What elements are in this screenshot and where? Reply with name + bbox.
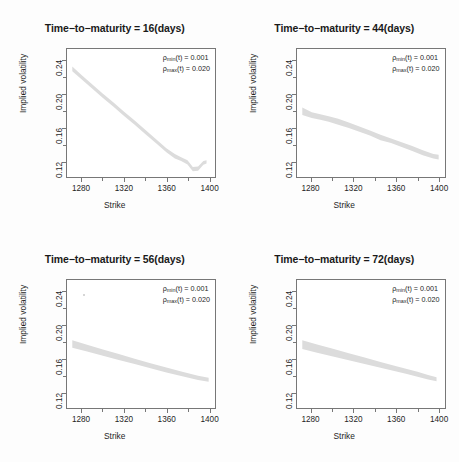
x-tick-label: 1280 xyxy=(301,184,319,193)
y-tick-minor xyxy=(293,308,296,309)
x-tick-minor xyxy=(188,178,189,181)
y-tick-minor xyxy=(293,145,296,146)
y-axis-title: Implied volatility xyxy=(248,54,258,113)
rho-max-line: ρmax(t) = 0.020 xyxy=(392,64,439,75)
plot-area: ρmin(t) = 0.001 ρmax(t) = 0.020 xyxy=(296,48,446,178)
x-tick-minor xyxy=(375,178,376,181)
rho-annotation: ρmin(t) = 0.001 ρmax(t) = 0.020 xyxy=(392,284,439,307)
x-tick-label: 1360 xyxy=(387,184,405,193)
y-tick-label: 0.24 xyxy=(285,291,294,307)
y-tick-minor xyxy=(63,77,66,78)
y-tick-label: 0.16 xyxy=(56,359,65,375)
rho-max-line: ρmax(t) = 0.020 xyxy=(163,64,210,75)
y-tick-label: 0.20 xyxy=(285,94,294,110)
x-tick xyxy=(439,409,440,413)
x-axis-title: Strike xyxy=(230,200,459,210)
rho-min-line: ρmin(t) = 0.001 xyxy=(163,53,210,64)
rho-max-line: ρmax(t) = 0.020 xyxy=(392,295,439,306)
x-tick-label: 1360 xyxy=(158,415,176,424)
x-axis-title: Strike xyxy=(230,431,459,441)
y-axis-title: Implied volatility xyxy=(18,285,28,344)
stray-point-marker xyxy=(83,294,85,296)
x-axis-title: Strike xyxy=(0,431,230,441)
rho-min-line: ρmin(t) = 0.001 xyxy=(392,53,439,64)
x-tick-minor xyxy=(375,409,376,412)
x-tick-minor xyxy=(102,178,103,181)
plot-area: ρmin(t) = 0.001 ρmax(t) = 0.020 xyxy=(66,48,216,178)
chart-panel-56: Time−to−maturity = 56(days) ρmin(t) = 0.… xyxy=(0,231,230,462)
y-tick-minor xyxy=(63,111,66,112)
x-tick xyxy=(124,409,125,413)
y-tick-label: 0.16 xyxy=(285,128,294,144)
y-tick-minor xyxy=(63,342,66,343)
y-tick-label: 0.16 xyxy=(285,359,294,375)
y-tick-label: 0.16 xyxy=(56,128,65,144)
chart-panel-16: Time−to−maturity = 16(days) ρmin(t) = 0.… xyxy=(0,0,230,231)
y-tick-minor xyxy=(63,308,66,309)
y-tick-label: 0.12 xyxy=(285,393,294,409)
x-tick-minor xyxy=(418,409,419,412)
y-tick-label: 0.20 xyxy=(56,94,65,110)
x-tick-minor xyxy=(418,178,419,181)
y-tick-minor xyxy=(293,77,296,78)
x-tick xyxy=(311,178,312,182)
y-axis-title: Implied volatility xyxy=(18,54,28,113)
x-tick-label: 1400 xyxy=(430,184,448,193)
y-tick-minor xyxy=(63,376,66,377)
x-tick xyxy=(439,178,440,182)
x-tick xyxy=(167,178,168,182)
chart-panel-72: Time−to−maturity = 72(days) ρmin(t) = 0.… xyxy=(230,231,459,462)
panel-title: Time−to−maturity = 56(days) xyxy=(0,253,230,265)
rho-annotation: ρmin(t) = 0.001 ρmax(t) = 0.020 xyxy=(392,53,439,76)
rho-annotation: ρmin(t) = 0.001 ρmax(t) = 0.020 xyxy=(163,284,210,307)
x-tick xyxy=(124,178,125,182)
panel-title: Time−to−maturity = 44(days) xyxy=(230,22,459,34)
x-tick-minor xyxy=(145,178,146,181)
x-tick-label: 1400 xyxy=(200,184,218,193)
rho-min-line: ρmin(t) = 0.001 xyxy=(392,284,439,295)
x-tick xyxy=(396,409,397,413)
x-tick-label: 1360 xyxy=(387,415,405,424)
x-tick-minor xyxy=(188,409,189,412)
x-tick-label: 1320 xyxy=(344,415,362,424)
y-tick-minor xyxy=(293,376,296,377)
x-tick xyxy=(210,409,211,413)
y-tick-label: 0.20 xyxy=(285,325,294,341)
y-axis-title: Implied volatility xyxy=(248,285,258,344)
x-tick-label: 1280 xyxy=(72,415,90,424)
x-tick xyxy=(353,409,354,413)
rho-max-line: ρmax(t) = 0.020 xyxy=(163,295,210,306)
y-tick-label: 0.12 xyxy=(56,393,65,409)
x-tick xyxy=(167,409,168,413)
panel-title: Time−to−maturity = 72(days) xyxy=(230,253,459,265)
chart-panel-44: Time−to−maturity = 44(days) ρmin(t) = 0.… xyxy=(230,0,459,231)
x-tick-label: 1280 xyxy=(72,184,90,193)
x-tick xyxy=(210,178,211,182)
figure-panel-grid: Time−to−maturity = 16(days) ρmin(t) = 0.… xyxy=(0,0,459,462)
y-tick-label: 0.20 xyxy=(56,325,65,341)
x-tick-minor xyxy=(332,409,333,412)
y-tick-label: 0.12 xyxy=(285,162,294,178)
y-tick-label: 0.12 xyxy=(56,162,65,178)
y-tick-minor xyxy=(293,111,296,112)
y-tick-label: 0.24 xyxy=(56,291,65,307)
x-tick xyxy=(81,178,82,182)
y-tick-label: 0.24 xyxy=(285,60,294,76)
x-tick-label: 1320 xyxy=(344,184,362,193)
y-axis: 0.120.160.200.24 xyxy=(40,48,66,178)
plot-area: ρmin(t) = 0.001 ρmax(t) = 0.020 xyxy=(296,279,446,409)
x-axis-title: Strike xyxy=(0,200,230,210)
x-tick-label: 1320 xyxy=(115,415,133,424)
x-tick-label: 1400 xyxy=(200,415,218,424)
y-axis: 0.120.160.200.24 xyxy=(270,279,296,409)
rho-annotation: ρmin(t) = 0.001 ρmax(t) = 0.020 xyxy=(163,53,210,76)
panel-title: Time−to−maturity = 16(days) xyxy=(0,22,230,34)
x-tick-minor xyxy=(145,409,146,412)
y-axis: 0.120.160.200.24 xyxy=(40,279,66,409)
x-tick xyxy=(311,409,312,413)
x-tick-minor xyxy=(102,409,103,412)
x-tick-minor xyxy=(332,178,333,181)
x-tick-label: 1400 xyxy=(430,415,448,424)
plot-area: ρmin(t) = 0.001 ρmax(t) = 0.020 xyxy=(66,279,216,409)
x-tick-label: 1320 xyxy=(115,184,133,193)
